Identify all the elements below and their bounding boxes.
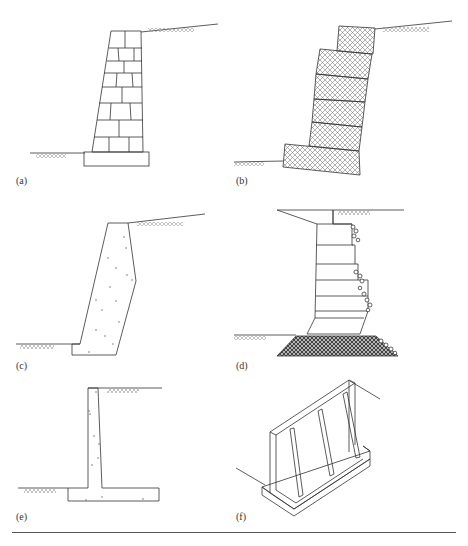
- panel-e-drawing: [18, 388, 162, 501]
- figure-caption: [12, 541, 456, 546]
- panel-label-c: (c): [16, 360, 27, 371]
- panel-a-drawing: [30, 24, 218, 166]
- panel-label-a: (a): [16, 175, 27, 186]
- panel-label-b: (b): [236, 175, 248, 186]
- caption-rule: [12, 532, 456, 533]
- panel-c-drawing: [16, 214, 205, 355]
- panel-label-f: (f): [236, 511, 246, 522]
- panel-label-e: (e): [16, 511, 27, 522]
- panel-label-d: (d): [236, 360, 248, 371]
- panel-b-drawing: [234, 21, 452, 175]
- panel-d-drawing: [234, 210, 404, 356]
- retaining-walls-figure: [0, 0, 468, 546]
- panel-f-drawing: [236, 380, 380, 516]
